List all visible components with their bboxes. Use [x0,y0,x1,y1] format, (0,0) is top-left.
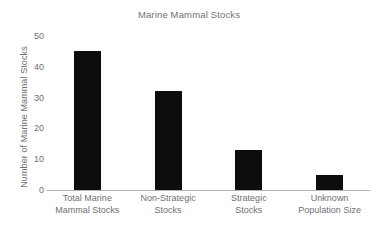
y-axis-tick-label: 30 [34,93,44,102]
x-axis-category-labels: Total MarineMammal StocksNon-StrategicSt… [47,193,370,233]
x-axis-category-label: UnknownPopulation Size [280,193,378,216]
plot-area [47,36,370,190]
y-axis-tick-labels: 01020304050 [24,36,44,190]
bar [155,91,182,190]
chart-title: Marine Mammal Stocks [0,9,378,20]
bar [74,51,101,190]
y-axis-tick-label: 10 [34,155,44,164]
bar [316,175,343,190]
y-axis-tick-label: 20 [34,124,44,133]
x-axis-category-label-line: Unknown [280,193,378,205]
bar-chart: Marine Mammal Stocks Number of Marine Ma… [0,0,378,235]
y-axis-tick-label: 40 [34,62,44,71]
y-axis-tick-label: 50 [34,32,44,41]
x-axis-category-label-line: Population Size [280,205,378,217]
bar [235,150,262,190]
